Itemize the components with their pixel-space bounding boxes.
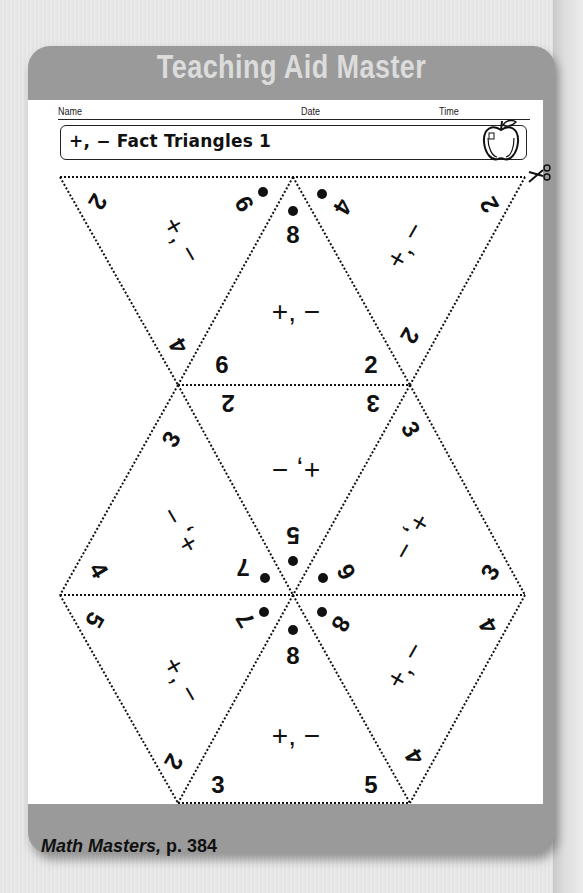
t5-sum-dot [260,573,270,583]
t6-corner-a: 3 [396,416,426,441]
t2-sum-dot [288,206,298,216]
triangle-8: 8 3 5 +, − [211,625,377,798]
t8-corner-c: 5 [364,771,377,798]
t2-corner-c: 2 [364,351,377,378]
t6-sum-dot [318,573,328,583]
triangle-9: 8 4 4 +, − [317,607,503,770]
t4-corner-a: 2 [221,390,234,417]
t2-operations: +, − [272,296,320,327]
t2-corner-b: 6 [215,351,228,378]
t8-corner-b: 3 [211,771,224,798]
t9-corner-a: 8 [326,611,356,636]
triangle-5: 3 4 7 +, − [84,426,270,583]
t4-corner-b: 3 [366,390,379,417]
t1-corner-a: 2 [83,189,113,214]
t7-operations: +, − [157,651,208,708]
t3-corner-a: 4 [328,194,358,220]
t8-corner-a: 8 [286,642,299,669]
t1-corner-b: 9 [229,191,259,216]
t5-corner-b: 4 [84,557,114,583]
t1-corner-c: 4 [163,333,193,359]
source-title: Math Masters, [41,836,161,856]
t4-corner-c: 5 [286,522,299,549]
t7-corner-b: 7 [230,607,260,632]
t3-sum-dot [317,189,327,199]
t9-sum-dot [317,607,327,617]
t3-corner-b: 2 [474,192,504,217]
cut-lines [60,177,525,803]
t5-corner-c: 7 [236,554,249,581]
t4-operations: +, − [272,455,320,486]
t6-corner-c: 3 [475,559,505,584]
t1-sum-dot [258,187,268,197]
t7-sum-dot [259,607,269,617]
t5-operations: +, − [155,501,206,558]
t9-corner-c: 4 [399,744,429,770]
t9-operations: +, − [380,636,431,693]
t4-sum-dot [288,556,298,566]
fact-triangles-sheet: 2 9 4 +, − 8 6 2 +, − 4 2 2 +, − 2 3 5 [0,0,583,893]
t8-operations: +, − [272,720,320,751]
t3-corner-c: 2 [395,323,425,348]
t1-operations: +, − [157,211,208,268]
t3-operations: +, − [380,216,431,273]
triangle-2: 8 6 2 +, − [215,206,377,378]
t8-sum-dot [288,625,298,635]
t6-operations: +, − [387,508,438,565]
t9-corner-b: 4 [473,613,503,639]
source-page: p. 384 [161,836,217,856]
source-reference: Math Masters, p. 384 [41,836,217,857]
t7-corner-a: 5 [80,607,110,632]
t2-corner-a: 8 [286,221,299,248]
triangle-4: 2 3 5 +, − [221,390,379,567]
t5-corner-a: 3 [156,426,186,451]
t6-corner-b: 6 [331,559,361,584]
t7-corner-c: 2 [159,749,189,774]
